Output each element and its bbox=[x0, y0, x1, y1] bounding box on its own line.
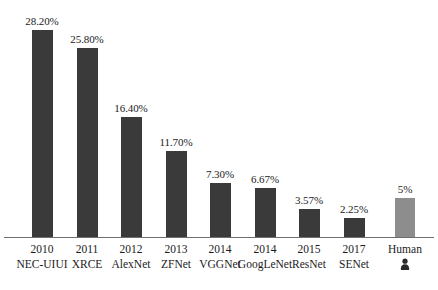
bar-group[interactable]: 2.25% bbox=[332, 0, 376, 238]
bar[interactable] bbox=[32, 30, 53, 238]
tick-human-label: Human bbox=[360, 238, 438, 257]
person-icon bbox=[399, 258, 411, 271]
bar-group-human[interactable]: 5% bbox=[383, 0, 427, 238]
bar-group[interactable]: 11.70% bbox=[154, 0, 198, 238]
bar-group[interactable]: 16.40% bbox=[109, 0, 153, 238]
bar-value-label: 2.25% bbox=[314, 203, 394, 216]
bar[interactable] bbox=[395, 198, 415, 238]
bar[interactable] bbox=[77, 48, 98, 238]
plot-area: 28.20% 25.80% 16.40% 11.70% 7.30% 6.67% bbox=[0, 0, 438, 238]
bar-value-label: 5% bbox=[365, 183, 438, 196]
bar[interactable] bbox=[344, 218, 365, 238]
bar[interactable] bbox=[166, 151, 187, 238]
x-axis-tick-labels: 2010 NEC-UIUI 2011 XRCE 2012 AlexNet 201… bbox=[0, 238, 438, 290]
bar-group[interactable]: 25.80% bbox=[65, 0, 109, 238]
bar-chart: 28.20% 25.80% 16.40% 11.70% 7.30% 6.67% bbox=[0, 0, 438, 290]
bar-group[interactable]: 7.30% bbox=[198, 0, 242, 238]
bar[interactable] bbox=[210, 183, 231, 238]
tick-label-group-human: Human bbox=[360, 238, 438, 271]
